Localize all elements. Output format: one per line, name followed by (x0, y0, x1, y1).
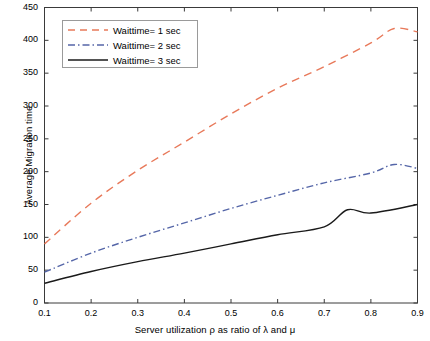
series-line-3 (45, 205, 418, 284)
x-axis-title: Server utilization ρ as ratio of λ and μ (0, 324, 430, 335)
legend-item-waittime-1: Waittime= 1 sec (63, 22, 199, 38)
y-tick-label: 50 (4, 264, 38, 274)
x-tick-label: 0.9 (403, 308, 430, 318)
chart-legend: Waittime= 1 sec Waittime= 2 sec Waittime… (62, 20, 198, 68)
y-tick-label: 0 (4, 297, 38, 307)
legend-line-sample-1 (68, 24, 108, 36)
series-line-2 (45, 164, 418, 272)
x-tick-label: 0.4 (169, 308, 199, 318)
x-tick-label: 0.6 (263, 308, 293, 318)
legend-item-waittime-2: Waittime= 2 sec (63, 37, 199, 53)
legend-label-3: Waittime= 3 sec (113, 55, 181, 66)
legend-line-sample-2 (68, 39, 108, 51)
x-tick-label: 0.7 (309, 308, 339, 318)
x-tick-label: 0.1 (30, 308, 60, 318)
y-tick-label: 400 (4, 34, 38, 44)
legend-item-waittime-3: Waittime= 3 sec (63, 52, 199, 68)
x-tick-label: 0.8 (356, 308, 386, 318)
legend-label-1: Waittime= 1 sec (113, 25, 181, 36)
x-tick-label: 0.2 (76, 308, 106, 318)
legend-label-2: Waittime= 2 sec (113, 40, 181, 51)
legend-line-sample-3 (68, 54, 108, 66)
y-tick-label: 450 (4, 2, 38, 12)
y-axis-title: Average Migration time (23, 76, 34, 236)
x-tick-label: 0.3 (123, 308, 153, 318)
x-tick-label: 0.5 (216, 308, 246, 318)
chart-figure: 050100150200250300350400450 0.10.20.30.4… (0, 0, 430, 341)
